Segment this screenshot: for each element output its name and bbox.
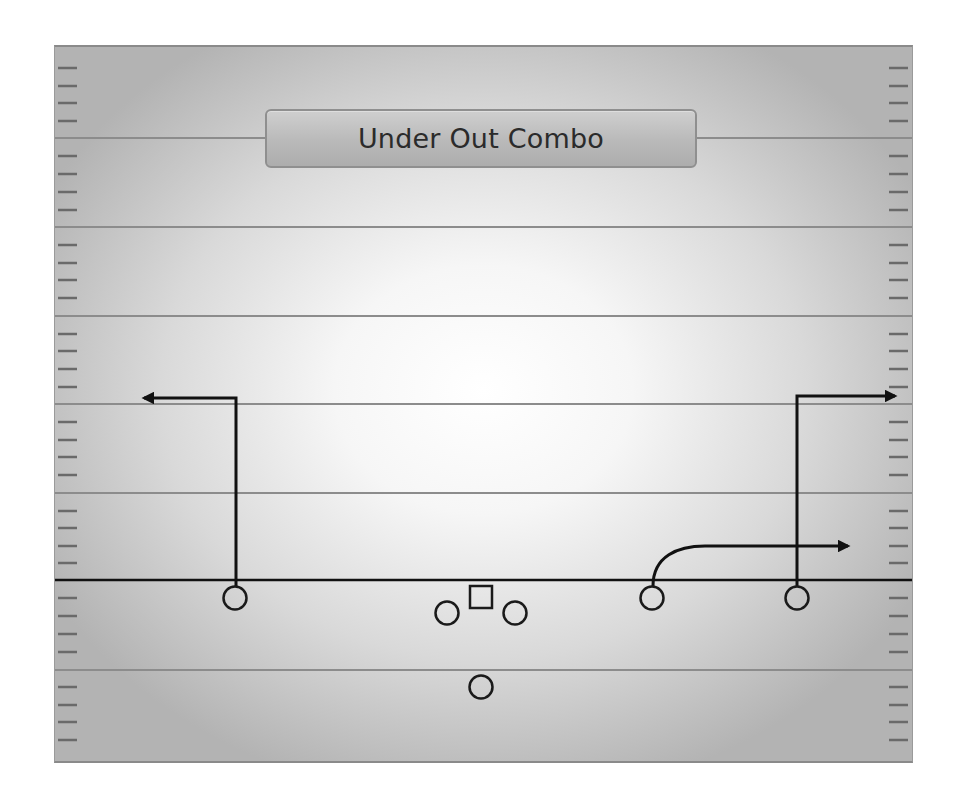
yard-lines [55, 138, 912, 670]
play-title-banner: Under Out Combo [265, 109, 697, 168]
center-icon[interactable] [470, 586, 492, 608]
players [224, 586, 809, 699]
quarterback-icon[interactable] [470, 676, 493, 699]
right-receiver-icon[interactable] [786, 587, 809, 610]
left-guard-icon[interactable] [436, 602, 459, 625]
routes [144, 396, 895, 586]
right-guard-icon[interactable] [504, 602, 527, 625]
play-title: Under Out Combo [358, 123, 604, 154]
right-out-route [797, 396, 895, 586]
slot-receiver-icon[interactable] [641, 587, 664, 610]
left-receiver-icon[interactable] [224, 587, 247, 610]
